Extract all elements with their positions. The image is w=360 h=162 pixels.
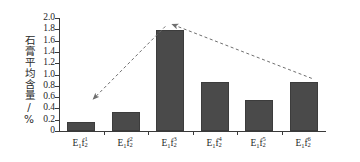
y-axis-label-slot: 2.0: [31, 18, 55, 19]
y-axis-tick-label: 0.2: [33, 115, 55, 125]
bar: [112, 112, 140, 131]
y-axis-tick-label: 1.6: [33, 36, 55, 46]
y-axis-label-slot: 0.6: [31, 97, 55, 98]
y-axis-label-slot: 0.8: [31, 86, 55, 87]
y-axis-tick-label: 1.0: [33, 70, 55, 80]
y-axis-label-slot: 1.6: [31, 41, 55, 42]
x-axis-tick-label: E1f52: [250, 136, 267, 151]
y-axis-tick-label: 1.2: [33, 58, 55, 68]
x-axis-tick: [237, 132, 238, 135]
x-axis-tick: [148, 132, 149, 135]
y-axis-label-slot: 1.8: [31, 29, 55, 30]
bar: [201, 82, 229, 131]
bar: [290, 82, 318, 131]
y-axis-tick-label: 0.4: [33, 103, 55, 113]
y-axis-label-slot: 0: [31, 131, 55, 132]
plot-area: [59, 18, 325, 131]
y-axis-tick-label: 2.0: [33, 13, 55, 23]
x-axis-tick-label: E1f32: [161, 136, 178, 151]
x-axis-tick-label: E1f42: [206, 136, 223, 151]
y-axis-label-slot: 0.2: [31, 120, 55, 121]
y-axis-tick-label: 1.4: [33, 47, 55, 57]
y-axis-label-slot: 1.0: [31, 75, 55, 76]
bar-chart-figure: 石膏平均含量/% 00.20.40.60.81.01.21.41.61.82.0…: [0, 0, 360, 162]
y-axis-tick-label: 0.6: [33, 92, 55, 102]
y-axis-tick: [55, 131, 59, 132]
y-axis-label-slot: 1.4: [31, 52, 55, 53]
x-axis-tick-label: E1f12: [72, 136, 89, 151]
y-axis-tick-label: 0.8: [33, 81, 55, 91]
bar: [67, 122, 95, 131]
x-axis-tick: [193, 132, 194, 135]
x-axis-tick: [282, 132, 283, 135]
x-axis-tick: [104, 132, 105, 135]
y-axis-label-slot: 1.2: [31, 63, 55, 64]
y-axis-tick-label: 0: [33, 126, 55, 136]
bar: [245, 100, 273, 131]
x-axis-tick-label: E1f22: [117, 136, 134, 151]
bar: [156, 30, 184, 131]
x-axis-tick-label: E1f62: [295, 136, 312, 151]
y-axis-tick-label: 1.8: [33, 24, 55, 34]
y-axis-label-slot: 0.4: [31, 108, 55, 109]
